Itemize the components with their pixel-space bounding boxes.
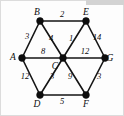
edge-weight-C-G: 12 bbox=[81, 46, 90, 56]
graph-node-A bbox=[19, 55, 26, 62]
graph-node-B bbox=[37, 18, 44, 25]
graph-canvas: 328411412123935 ABCDEFG bbox=[0, 0, 124, 116]
node-label-A: A bbox=[9, 52, 16, 62]
edge-weight-C-D: 3 bbox=[49, 71, 54, 81]
graph-diagram-figure: 328411412123935 ABCDEFG bbox=[0, 0, 124, 116]
node-label-F: F bbox=[82, 99, 89, 109]
graph-edge-F-G bbox=[86, 58, 105, 95]
graph-node-D bbox=[37, 92, 44, 99]
node-label-C: C bbox=[52, 61, 59, 71]
graph-node-C bbox=[60, 55, 67, 62]
node-label-B: B bbox=[34, 7, 40, 17]
node-label-G: G bbox=[107, 53, 114, 63]
edge-weight-A-B: 3 bbox=[24, 31, 29, 41]
graph-node-E bbox=[83, 18, 90, 25]
edge-weight-D-F: 5 bbox=[60, 96, 64, 106]
edge-weight-F-G: 3 bbox=[96, 71, 101, 81]
edge-weight-A-C: 8 bbox=[41, 46, 46, 56]
node-label-E: E bbox=[82, 7, 89, 17]
graph-edge-C-F bbox=[63, 58, 86, 95]
edge-weight-E-G: 14 bbox=[93, 32, 102, 42]
node-label-D: D bbox=[33, 99, 41, 109]
edge-weight-C-E: 1 bbox=[69, 33, 73, 43]
edge-weight-B-E: 2 bbox=[60, 9, 65, 19]
edge-weight-A-D: 12 bbox=[21, 71, 30, 81]
graph-node-F bbox=[83, 92, 90, 99]
